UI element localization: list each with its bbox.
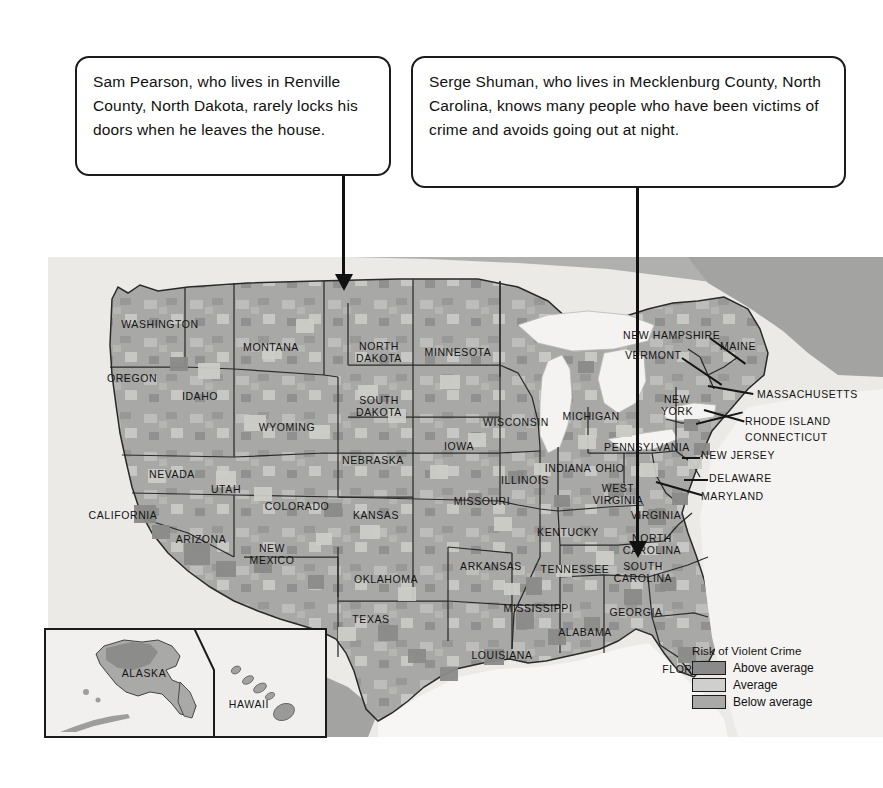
aleutian-isle-1	[83, 689, 89, 695]
inset-label-hawaii: HAWAII	[229, 698, 269, 710]
legend-item-below-average: Below average	[692, 695, 814, 709]
legend-label: Above average	[733, 661, 814, 675]
callout-sam-pearson: Sam Pearson, who lives in Renville Count…	[75, 56, 391, 176]
legend-item-average: Average	[692, 678, 814, 692]
legend-item-above-average: Above average	[692, 661, 814, 675]
callout-serge-text: Serge Shuman, who lives in Mecklenburg C…	[429, 70, 828, 142]
arrow-head	[335, 274, 353, 291]
legend-swatch	[692, 695, 726, 709]
inset-geometry	[46, 630, 325, 736]
arrow-stem	[342, 176, 345, 277]
legend-label: Below average	[733, 695, 812, 709]
aleutian-isle-2	[96, 698, 101, 703]
callout-sam-text: Sam Pearson, who lives in Renville Count…	[93, 70, 373, 142]
callout-serge-shuman: Serge Shuman, who lives in Mecklenburg C…	[411, 56, 846, 188]
legend-title: Risk of Violent Crime	[692, 645, 814, 657]
legend-rows: Above averageAverageBelow average	[692, 661, 814, 709]
legend-swatch	[692, 678, 726, 692]
alaska-hawaii-inset: ALASKA HAWAII	[44, 628, 327, 738]
leader-tick-new-jersey	[682, 457, 700, 459]
arrow-head	[629, 541, 647, 558]
crime-risk-map-figure: WASHINGTONOREGONIDAHOMONTANAWYOMINGNEVAD…	[0, 0, 883, 788]
legend-swatch	[692, 661, 726, 675]
map-legend: Risk of Violent Crime Above averageAvera…	[692, 645, 814, 712]
inset-label-alaska: ALASKA	[122, 667, 167, 679]
arrow-stem	[636, 188, 639, 544]
legend-label: Average	[733, 678, 777, 692]
leader-tick-delaware	[684, 479, 708, 481]
